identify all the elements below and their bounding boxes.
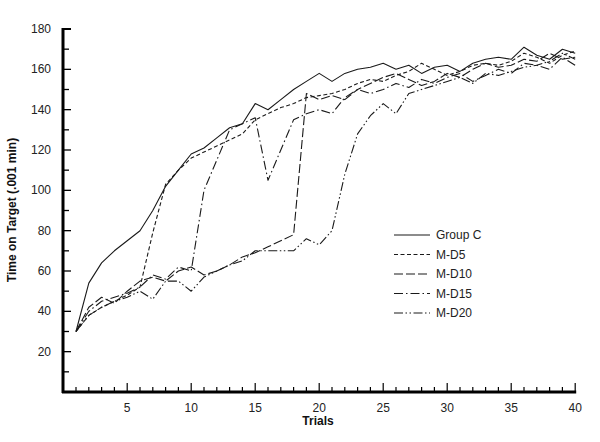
legend-label: M-D15 [436,287,472,301]
legend-label: M-D20 [436,306,472,320]
y-tick-label: 140 [31,103,51,117]
y-tick-label: 40 [38,304,52,318]
legend-item-m-d10: M-D10 [394,267,472,281]
y-axis-ticks: 20406080100120140160180 [31,22,71,372]
legend-label: M-D10 [436,267,472,281]
x-tick-label: 25 [377,401,391,415]
x-tick-label: 40 [569,401,583,415]
legend-item-m-d20: M-D20 [394,306,472,320]
legend-item-m-d5: M-D5 [394,248,466,262]
series-line-group-c [76,47,575,331]
x-tick-label: 20 [313,401,327,415]
line-chart: 20406080100120140160180 510152025303540 … [0,0,600,442]
series-lines [76,47,575,331]
series-line-m-d5 [76,51,575,331]
legend-item-m-d15: M-D15 [394,287,472,301]
axes [62,28,576,393]
y-tick-label: 160 [31,62,51,76]
x-tick-label: 5 [124,401,131,415]
y-tick-label: 120 [31,143,51,157]
legend: Group CM-D5M-D10M-D15M-D20 [394,228,482,320]
legend-item-group-c: Group C [394,228,482,242]
y-tick-label: 100 [31,183,51,197]
legend-label: Group C [436,228,482,242]
x-tick-label: 15 [249,401,263,415]
legend-label: M-D5 [436,248,466,262]
x-tick-label: 30 [441,401,455,415]
y-tick-label: 180 [31,22,51,36]
x-axis-ticks: 510152025303540 [76,383,582,415]
y-tick-label: 20 [38,345,52,359]
series-line-m-d15 [76,57,575,331]
y-tick-label: 80 [38,224,52,238]
y-axis-title: Time on Target (.001 min) [5,138,19,282]
x-tick-label: 35 [505,401,519,415]
x-axis-title: Trials [302,414,334,428]
y-tick-label: 60 [38,264,52,278]
x-tick-label: 10 [185,401,199,415]
